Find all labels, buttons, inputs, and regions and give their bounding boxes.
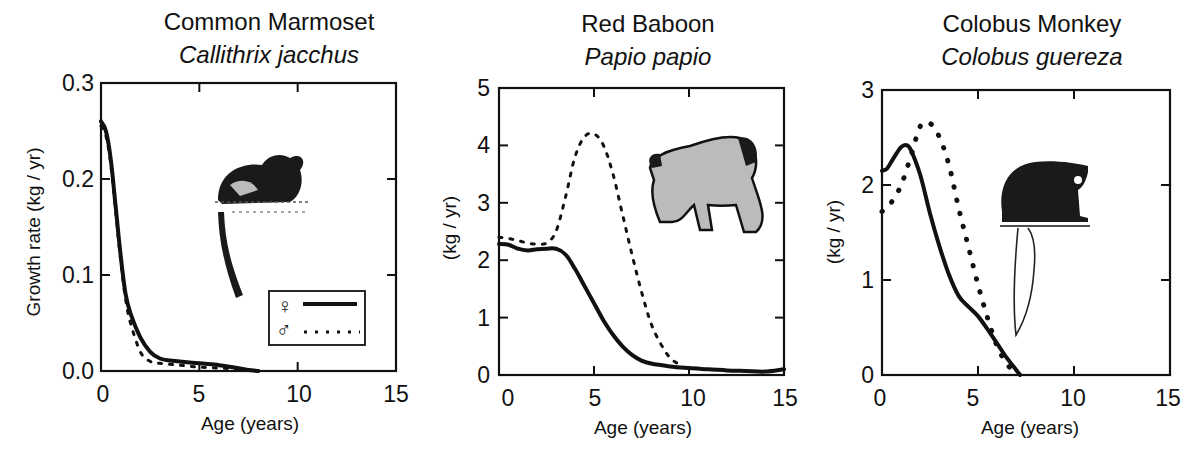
y-tick-label: 0 bbox=[861, 362, 874, 388]
y-tick-label: 0.1 bbox=[62, 262, 94, 288]
x-tick-label: 5 bbox=[967, 385, 980, 411]
x-tick-label: 0 bbox=[874, 385, 887, 411]
x-tick-labels: 0 5 10 15 bbox=[97, 381, 409, 407]
panel-colobus: Colobus Monkey Colobus guereza 0 1 2 3 0… bbox=[823, 10, 1181, 438]
x-tick-label: 0 bbox=[502, 385, 515, 411]
y-tick-label: 2 bbox=[861, 172, 874, 198]
x-tick-label: 10 bbox=[286, 381, 312, 407]
panel-title: Colobus Monkey bbox=[943, 10, 1122, 37]
x-axis-label: Age (years) bbox=[201, 413, 299, 434]
panel-title: Red Baboon bbox=[581, 10, 714, 37]
y-tick-label: 3 bbox=[477, 190, 490, 216]
figure: Common Marmoset Callithrix jacchus 0.0 0… bbox=[0, 0, 1196, 455]
female-symbol: ♀ bbox=[277, 294, 293, 317]
y-tick-label: 0.0 bbox=[62, 358, 94, 384]
y-axis-label: Growth rate (kg / yr) bbox=[23, 148, 44, 317]
plot-area bbox=[882, 90, 1170, 375]
x-tick-labels: 0 5 10 15 bbox=[874, 385, 1181, 411]
y-tick-label: 2 bbox=[477, 247, 490, 273]
panel-subtitle: Callithrix jacchus bbox=[179, 41, 359, 68]
marmoset-illustration bbox=[215, 155, 308, 298]
female-series-line bbox=[101, 121, 258, 371]
x-tick-label: 10 bbox=[1060, 385, 1086, 411]
plot-area bbox=[499, 88, 784, 375]
baboon-illustration bbox=[649, 137, 762, 232]
x-tick-label: 15 bbox=[1155, 385, 1181, 411]
y-tick-label: 3 bbox=[861, 77, 874, 103]
y-axis-label: (kg / yr) bbox=[439, 196, 460, 260]
y-tick-labels: 0 1 2 3 4 5 bbox=[477, 75, 490, 388]
panel-title: Common Marmoset bbox=[164, 8, 375, 35]
y-tick-label: 0.3 bbox=[62, 70, 94, 96]
male-series-line bbox=[101, 126, 258, 371]
y-tick-label: 5 bbox=[477, 75, 490, 101]
y-tick-label: 0 bbox=[477, 362, 490, 388]
female-series-line bbox=[499, 244, 784, 372]
y-tick-labels: 0.0 0.1 0.2 0.3 bbox=[62, 70, 94, 384]
x-tick-label: 5 bbox=[589, 385, 602, 411]
male-symbol: ♂ bbox=[276, 318, 292, 341]
y-axis-label: (kg / yr) bbox=[823, 200, 844, 264]
y-tick-label: 0.2 bbox=[62, 166, 94, 192]
panel-subtitle: Papio papio bbox=[585, 43, 712, 70]
colobus-illustration bbox=[1000, 161, 1090, 335]
y-tick-labels: 0 1 2 3 bbox=[861, 77, 874, 388]
y-tick-label: 1 bbox=[861, 267, 874, 293]
axis-ticks bbox=[882, 90, 1170, 375]
panel-marmoset: Common Marmoset Callithrix jacchus 0.0 0… bbox=[23, 8, 409, 434]
panel-baboon: Red Baboon Papio papio 0 1 2 3 4 5 0 5 1… bbox=[439, 10, 798, 438]
x-tick-label: 5 bbox=[193, 381, 206, 407]
y-tick-label: 1 bbox=[477, 305, 490, 331]
legend: ♀ ♂ bbox=[269, 291, 365, 345]
male-series-line bbox=[882, 122, 1016, 375]
x-tick-label: 0 bbox=[97, 381, 110, 407]
x-axis-label: Age (years) bbox=[594, 417, 692, 438]
x-tick-label: 15 bbox=[772, 385, 798, 411]
panel-subtitle: Colobus guereza bbox=[941, 43, 1122, 70]
y-tick-label: 4 bbox=[477, 132, 490, 158]
x-tick-labels: 0 5 10 15 bbox=[502, 385, 798, 411]
axis-ticks bbox=[499, 88, 784, 375]
x-axis-label: Age (years) bbox=[981, 417, 1079, 438]
x-tick-label: 15 bbox=[383, 381, 409, 407]
x-tick-label: 10 bbox=[680, 385, 706, 411]
